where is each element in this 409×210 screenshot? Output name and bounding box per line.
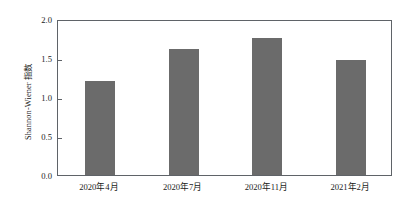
x-axis-tick-label-group: 2020年4月2020年7月2020年11月2021年2月: [57, 180, 392, 198]
y-axis-tick-label: 2.0: [26, 15, 52, 25]
y-axis-tick-label: 1.5: [26, 54, 52, 64]
bar-chart-figure: Shannon-Wiener 指数 0.00.51.01.52.0 2020年4…: [0, 0, 409, 210]
bar: [169, 49, 199, 175]
bar-group: [58, 21, 391, 175]
x-axis-tick-label: 2020年7月: [163, 180, 202, 192]
x-axis-tick-label: 2020年11月: [245, 180, 288, 192]
y-axis-tick-label: 1.0: [26, 93, 52, 103]
x-axis-tick-label: 2020年4月: [79, 180, 118, 192]
y-axis-tick-label-group: 0.00.51.01.52.0: [26, 20, 52, 176]
y-axis-tick-label: 0.0: [26, 171, 52, 181]
bar: [336, 60, 366, 175]
bar: [252, 38, 282, 175]
plot-area: [57, 20, 392, 176]
y-axis-tick-label: 0.5: [26, 132, 52, 142]
x-axis-tick-label: 2021年2月: [330, 180, 369, 192]
bar: [85, 81, 115, 175]
